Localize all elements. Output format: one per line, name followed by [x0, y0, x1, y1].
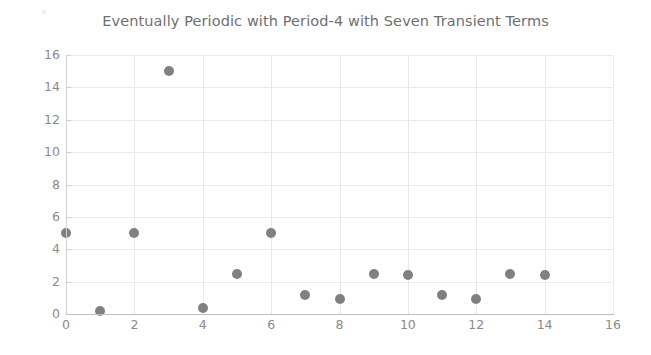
data-point [266, 228, 276, 238]
data-point [540, 270, 550, 280]
x-tick-label-16: 16 [593, 319, 633, 332]
data-point [335, 294, 345, 304]
gridline-x-2 [134, 55, 135, 314]
plot-border-right [613, 55, 614, 315]
y-tick-mark-14 [66, 87, 71, 88]
gridline-x-4 [203, 55, 204, 314]
gridline-x-12 [476, 55, 477, 314]
y-axis-tick-labels: 0246810121416 [27, 55, 60, 314]
y-tick-label-16: 16 [32, 49, 60, 62]
x-tick-label-6: 6 [251, 319, 291, 332]
y-tick-mark-4 [66, 249, 71, 250]
y-tick-label-6: 6 [32, 211, 60, 224]
y-tick-label-4: 4 [32, 243, 60, 256]
data-point [232, 269, 242, 279]
y-tick-mark-8 [66, 185, 71, 186]
data-point [369, 269, 379, 279]
x-tick-label-4: 4 [183, 319, 223, 332]
x-axis-line [66, 314, 614, 315]
data-point [129, 228, 139, 238]
x-tick-label-14: 14 [525, 319, 565, 332]
y-tick-mark-16 [66, 55, 71, 56]
y-tick-mark-6 [66, 217, 71, 218]
x-axis-tick-labels: 0246810121416 [66, 319, 613, 339]
y-tick-label-8: 8 [32, 179, 60, 192]
plot-area [66, 55, 613, 314]
y-tick-mark-10 [66, 152, 71, 153]
data-point [505, 269, 515, 279]
x-tick-label-2: 2 [114, 319, 154, 332]
y-tick-label-12: 12 [32, 114, 60, 127]
data-point [164, 66, 174, 76]
y-tick-label-14: 14 [32, 81, 60, 94]
data-point [471, 294, 481, 304]
gridline-x-8 [340, 55, 341, 314]
data-point [437, 290, 447, 300]
x-tick-label-10: 10 [388, 319, 428, 332]
gridline-x-6 [271, 55, 272, 314]
plot-border-top [66, 55, 614, 56]
data-point [403, 270, 413, 280]
y-tick-label-2: 2 [32, 276, 60, 289]
y-tick-mark-2 [66, 282, 71, 283]
x-tick-label-8: 8 [320, 319, 360, 332]
y-tick-mark-12 [66, 120, 71, 121]
y-tick-label-10: 10 [32, 146, 60, 159]
x-tick-label-0: 0 [46, 319, 86, 332]
chart-figure: Eventually Periodic with Period-4 with S… [0, 0, 651, 355]
x-tick-label-12: 12 [456, 319, 496, 332]
data-point [300, 290, 310, 300]
chart-title: Eventually Periodic with Period-4 with S… [0, 13, 651, 29]
data-point [198, 303, 208, 313]
